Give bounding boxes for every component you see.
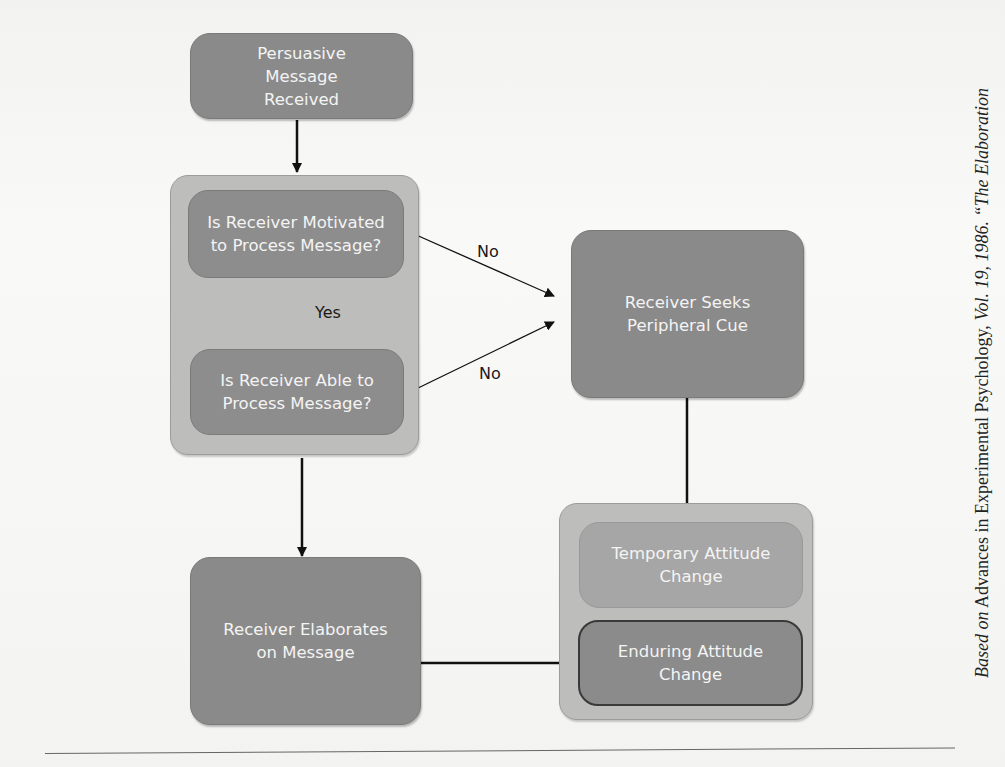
node-peripheral-cue-label: Receiver Seeks Peripheral Cue (618, 291, 758, 337)
caption-title-start: “The Elaboration (972, 88, 992, 217)
group-processing-questions: Is Receiver Motivated to Process Message… (170, 175, 419, 455)
node-message-received: Persuasive Message Received (190, 33, 413, 119)
node-elaborates-label: Receiver Elaborates on Message (216, 618, 396, 664)
node-temporary-attitude: Temporary Attitude Change (579, 522, 803, 608)
node-elaborates: Receiver Elaborates on Message (190, 557, 421, 725)
node-motivated-label: Is Receiver Motivated to Process Message… (201, 211, 391, 257)
group-attitude-change: Temporary Attitude Change Enduring Attit… (559, 503, 813, 720)
node-able: Is Receiver Able to Process Message? (190, 349, 404, 435)
caption-volume: Vol. 19, 1986. (972, 221, 992, 321)
caption-based-on: Based on (972, 611, 992, 678)
node-motivated: Is Receiver Motivated to Process Message… (188, 190, 404, 278)
node-message-received-label: Persuasive Message Received (227, 42, 377, 111)
node-enduring-attitude: Enduring Attitude Change (578, 620, 803, 706)
node-enduring-attitude-label: Enduring Attitude Change (601, 640, 781, 686)
connector-arrows (0, 0, 1005, 767)
node-temporary-attitude-label: Temporary Attitude Change (601, 542, 781, 588)
edge-label-yes: Yes (315, 303, 341, 322)
caption-source: Advances in Experimental Psychology, (972, 325, 992, 608)
node-peripheral-cue: Receiver Seeks Peripheral Cue (571, 230, 804, 398)
node-able-label: Is Receiver Able to Process Message? (212, 369, 382, 415)
source-caption: Based on Advances in Experimental Psycho… (972, 88, 993, 678)
edge-label-no-motivated: No (477, 242, 499, 261)
edge-label-no-able: No (479, 364, 501, 383)
